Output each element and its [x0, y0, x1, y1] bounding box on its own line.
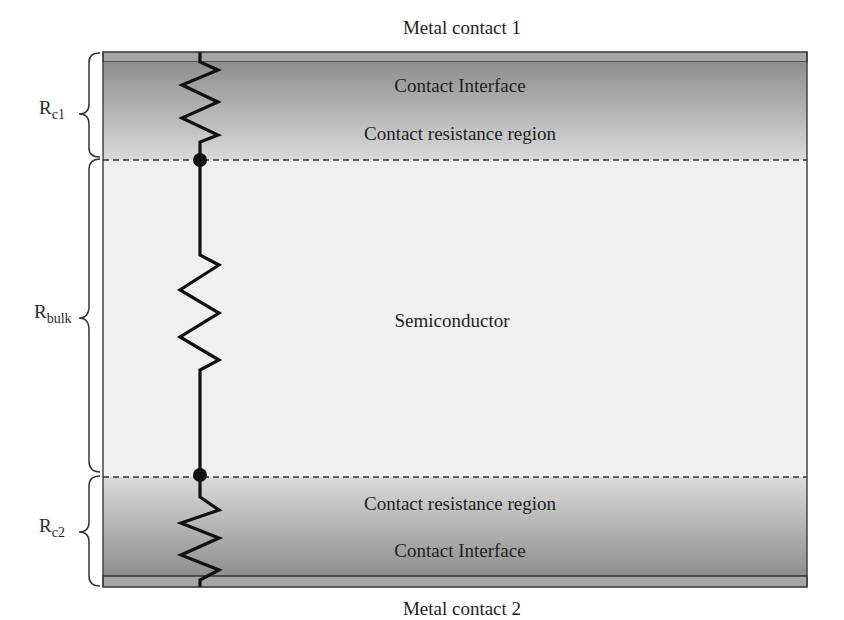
bottom-contact-resistance-label: Contact resistance region: [364, 493, 556, 515]
rc1-main: R: [39, 97, 52, 118]
rbulk-label: Rbulk: [34, 301, 72, 327]
rc2-label: Rc2: [39, 515, 65, 541]
bottom-contact-interface-label: Contact Interface: [394, 540, 525, 562]
metal-contact-1-label: Metal contact 1: [403, 17, 521, 39]
top-contact-interface-label: Contact Interface: [394, 75, 525, 97]
rbulk-sub: bulk: [47, 311, 72, 326]
rc2-main: R: [39, 515, 52, 536]
node-top: [193, 153, 207, 167]
rc1-sub: c1: [52, 107, 65, 122]
brace-rc1: [79, 53, 100, 157]
brace-rbulk: [79, 159, 100, 472]
node-bottom: [193, 468, 207, 482]
metal-contact-2-strip: [103, 576, 807, 587]
rc2-sub: c2: [52, 525, 65, 540]
top-contact-resistance-label: Contact resistance region: [364, 123, 556, 145]
rbulk-main: R: [34, 301, 47, 322]
metal-contact-2-label: Metal contact 2: [403, 598, 521, 620]
rc1-label: Rc1: [39, 97, 65, 123]
brace-rc2: [79, 476, 100, 586]
semiconductor-label: Semiconductor: [394, 310, 509, 332]
metal-contact-1-strip: [103, 52, 807, 62]
